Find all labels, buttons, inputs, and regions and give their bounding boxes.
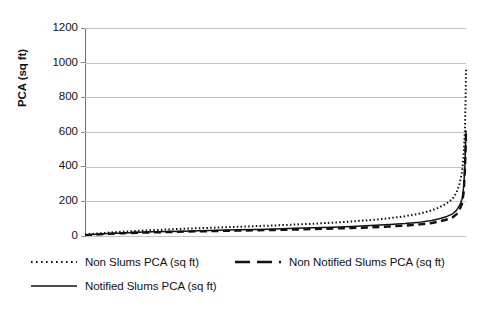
dashed-line-marker (234, 256, 282, 268)
legend-label: Non Slums PCA (sq ft) (85, 256, 199, 268)
series-plot (85, 28, 466, 236)
gridline-0 (85, 236, 466, 237)
legend-item-non-slums[interactable]: Non Slums PCA (sq ft) (30, 253, 199, 271)
y-axis-title: PCA (sq ft) (16, 13, 28, 143)
y-tick-label: 400 (34, 160, 78, 172)
y-tick-label: 600 (34, 126, 78, 138)
y-tick-label: 1200 (34, 22, 78, 34)
legend-label: Notified Slums PCA (sq ft) (85, 280, 217, 292)
y-tick-label: 0 (34, 230, 78, 242)
chart-legend: Non Slums PCA (sq ft) Non Notified Slums… (30, 251, 480, 307)
plot-area (85, 28, 466, 236)
legend-label: Non Notified Slums PCA (sq ft) (289, 256, 445, 268)
legend-item-notified-slums[interactable]: Notified Slums PCA (sq ft) (30, 277, 217, 295)
series-line (85, 70, 466, 235)
dotted-line-marker (30, 256, 78, 268)
legend-item-non-notified-slums[interactable]: Non Notified Slums PCA (sq ft) (234, 253, 445, 271)
y-tick-label: 200 (34, 195, 78, 207)
y-tick-label: 800 (34, 91, 78, 103)
chart-container: PCA (sq ft) 1200 1000 800 600 400 200 0 (0, 0, 487, 311)
series-line (85, 130, 466, 235)
series-line (85, 132, 466, 235)
solid-line-marker (30, 280, 78, 292)
y-tick-label: 1000 (34, 57, 78, 69)
